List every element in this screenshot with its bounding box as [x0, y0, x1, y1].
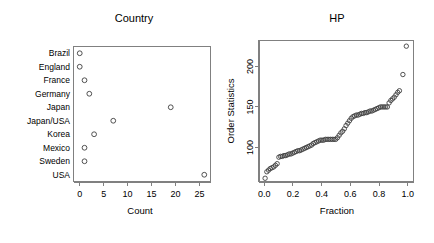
hp-data-point: [263, 176, 267, 180]
hp-y-tick-label: 200: [246, 59, 256, 74]
figure-root: Country BrazilEnglandFranceGermanyJapanJ…: [0, 0, 434, 243]
country-tick-label: 0: [77, 189, 82, 199]
country-data-point: [87, 91, 92, 96]
country-tick-label: 20: [171, 189, 181, 199]
country-category-labels: BrazilEnglandFranceGermanyJapanJapan/USA…: [27, 48, 71, 180]
country-category-label: Brazil: [49, 48, 70, 58]
country-category-label: Sweden: [39, 156, 70, 166]
country-x-axis-label: Count: [127, 205, 153, 216]
country-category-label: England: [39, 62, 70, 72]
country-data-point: [82, 145, 87, 150]
country-data-point: [168, 105, 173, 110]
country-category-label: Japan: [47, 102, 70, 112]
hp-data-points: [263, 44, 409, 180]
panel-country: Country BrazilEnglandFranceGermanyJapanJ…: [27, 12, 211, 216]
country-category-label: Korea: [47, 129, 70, 139]
panel-hp: HP 0.00.20.40.60.81.0 100150200 Fraction…: [225, 12, 414, 216]
country-data-point: [202, 172, 207, 177]
hp-plot-frame: [259, 41, 414, 182]
country-data-point: [82, 159, 87, 164]
country-data-point: [77, 64, 82, 69]
country-tick-label: 15: [147, 189, 157, 199]
country-tick-label: 5: [101, 189, 106, 199]
country-data-point: [82, 78, 87, 83]
country-category-label: France: [44, 75, 71, 85]
country-category-label: Mexico: [43, 143, 70, 153]
country-data-point: [111, 118, 116, 123]
two-panel-figure: Country BrazilEnglandFranceGermanyJapanJ…: [0, 0, 434, 243]
country-category-label: Germany: [35, 89, 71, 99]
country-x-axis-ticks: 0510152025: [74, 182, 211, 199]
country-data-points: [77, 51, 206, 177]
hp-x-tick-label: 0.6: [344, 189, 357, 199]
country-data-point: [77, 51, 82, 56]
hp-data-point: [404, 44, 408, 48]
hp-x-tick-label: 0.0: [258, 189, 271, 199]
hp-x-axis-label: Fraction: [320, 205, 354, 216]
country-tick-label: 10: [123, 189, 133, 199]
country-plot-frame: [74, 47, 211, 182]
hp-y-tick-label: 150: [246, 99, 256, 114]
country-category-label: USA: [53, 170, 71, 180]
hp-y-tick-label: 100: [246, 140, 256, 155]
country-category-label: Japan/USA: [27, 116, 70, 126]
country-data-point: [92, 132, 97, 137]
hp-y-axis-label: Order Statistics: [225, 78, 236, 143]
hp-x-tick-label: 0.2: [287, 189, 300, 199]
hp-x-tick-label: 0.4: [315, 189, 328, 199]
hp-chart-title: HP: [329, 12, 344, 24]
hp-x-tick-label: 1.0: [402, 189, 415, 199]
country-chart-title: Country: [115, 12, 154, 24]
hp-x-axis-ticks: 0.00.20.40.60.81.0: [258, 182, 414, 199]
hp-y-axis-ticks: 100150200: [246, 41, 260, 182]
hp-data-point: [401, 72, 405, 76]
hp-x-tick-label: 0.8: [373, 189, 386, 199]
country-tick-label: 25: [194, 189, 204, 199]
